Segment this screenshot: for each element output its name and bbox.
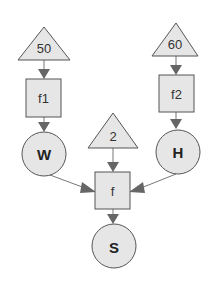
node-label: f2: [171, 87, 182, 102]
node-label: 2: [109, 129, 116, 144]
diagram-canvas: 50 f1 W 60 f2 H 2 f S: [0, 0, 216, 287]
arrowhead-icon: [170, 119, 182, 129]
arrowhead-icon: [170, 65, 182, 75]
arrowhead-icon: [107, 214, 119, 224]
node-label: S: [109, 239, 119, 256]
constant-node-60[interactable]: 60: [152, 23, 198, 56]
node-label: f: [111, 184, 115, 199]
node-label: H: [173, 144, 184, 161]
variable-node-h[interactable]: H: [156, 130, 200, 174]
arrowhead-icon: [38, 69, 50, 79]
arrowhead-icon: [80, 182, 96, 193]
arrowhead-icon: [38, 122, 50, 132]
arrowhead-icon: [129, 182, 145, 193]
function-node-f2[interactable]: f2: [159, 75, 194, 112]
constant-node-2[interactable]: 2: [88, 113, 138, 148]
edge-w-to-f: [50, 175, 85, 188]
node-label: 60: [168, 37, 182, 52]
node-label: 50: [37, 41, 51, 56]
node-label: W: [37, 146, 52, 163]
arrowhead-icon: [107, 162, 119, 172]
constant-node-50[interactable]: 50: [18, 27, 70, 60]
function-node-f1[interactable]: f1: [26, 79, 61, 117]
function-node-f[interactable]: f: [95, 172, 130, 209]
variable-node-w[interactable]: W: [22, 132, 66, 176]
variable-node-s[interactable]: S: [92, 224, 136, 268]
edge-h-to-f: [141, 174, 176, 188]
node-label: f1: [38, 91, 49, 106]
